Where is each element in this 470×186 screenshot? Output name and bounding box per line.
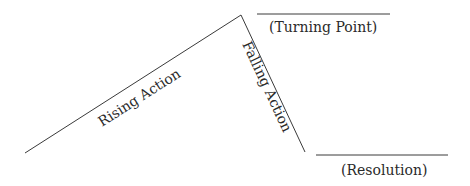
rising-action-label: Rising Action [95,65,183,129]
rising-action-line [25,15,241,153]
plot-diagram-canvas: Rising Action Falling Action (Turning Po… [0,0,470,186]
turning-point-label: (Turning Point) [269,19,377,35]
plot-diagram: Rising Action Falling Action (Turning Po… [0,0,470,186]
falling-action-label: Falling Action [239,39,295,135]
resolution-label: (Resolution) [341,162,427,178]
